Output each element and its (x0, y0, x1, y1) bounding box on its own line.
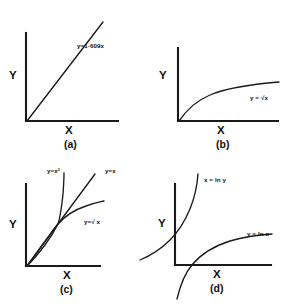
panel-a: Y X y=1·609x (a) (0, 0, 145, 152)
figure-four-panel-graph-plate: Y X y=1·609x (a) Y X y = √x (b) Y X y=x² (0, 0, 291, 305)
y-axis-label: Y (159, 70, 167, 82)
y-axis-label: Y (158, 218, 166, 230)
panel-b: Y X y = √x (b) (146, 0, 291, 152)
curve-sqrt (179, 82, 279, 121)
curve-sqrt (27, 201, 104, 266)
curve-x-squared (27, 173, 64, 266)
curve-label-sqrt: y = √x (250, 95, 268, 101)
curve-linear (27, 22, 103, 121)
panel-d: Y X x = ln y y = ln x (d) (146, 152, 291, 304)
curve-x-equals-ln-y (140, 174, 198, 260)
x-axis-label: X (63, 270, 71, 282)
panel-caption-c: (c) (60, 284, 73, 295)
x-axis-label: X (213, 269, 221, 281)
curve-label-y-equals-ln-x: y = ln x (247, 231, 269, 237)
curve-label-x-squared: y=x² (47, 168, 60, 174)
x-axis-label: X (65, 125, 73, 137)
x-axis-label: X (217, 125, 225, 137)
curve-label-sqrt: y=√ x (84, 219, 100, 225)
curve-label-linear: y=1·609x (77, 43, 104, 49)
curve-y-equals-ln-x (177, 234, 272, 299)
panel-caption-d: (d) (210, 283, 223, 294)
panel-caption-a: (a) (64, 139, 77, 150)
panel-caption-b: (b) (216, 139, 229, 150)
y-axis-label: Y (9, 219, 17, 231)
curve-label-x-equals-ln-y: x = ln y (204, 177, 226, 183)
y-axis-label: Y (9, 70, 17, 82)
panel-c-plot (0, 152, 145, 304)
panel-c: Y X y=x² y=x y=√ x (c) (0, 152, 145, 304)
curve-label-linear: y=x (105, 168, 116, 174)
